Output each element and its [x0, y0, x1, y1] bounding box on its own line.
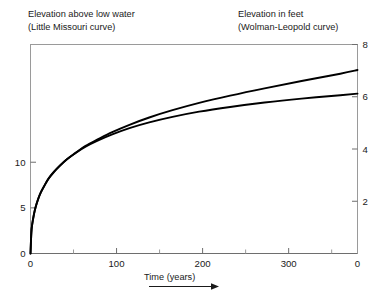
right-axis-caption-line2: (Wolman-Leopold curve): [238, 21, 338, 34]
left-axis-caption-line2: (Little Missouri curve): [28, 21, 135, 34]
curve-2: [31, 94, 358, 254]
right-axis-caption: Elevation in feet (Wolman-Leopold curve): [238, 8, 338, 33]
right-axis-caption-line1: Elevation in feet: [238, 8, 338, 21]
x-tick-label-right-zero: 0: [355, 258, 360, 269]
y-tick-label-left: 0: [20, 248, 25, 259]
x-tick-label: 100: [109, 258, 125, 269]
y-tick-label-right: 6: [363, 91, 368, 102]
left-axis-caption: Elevation above low water (Little Missou…: [28, 8, 135, 33]
y-tick-label-right: 4: [363, 144, 369, 155]
x-tick-label: 300: [281, 258, 297, 269]
y-tick-label-left: 5: [20, 202, 25, 213]
left-axis-caption-line1: Elevation above low water: [28, 8, 135, 21]
figure-container: Elevation above low water (Little Missou…: [0, 0, 379, 297]
x-axis-title-row: Time (years): [144, 272, 221, 291]
axis-tick-labels: 0100200300005102468: [15, 39, 369, 268]
y-tick-label-left: 10: [15, 157, 26, 168]
y-tick-label-right: 8: [363, 39, 368, 50]
chart-plot-area: 0100200300005102468: [0, 0, 379, 297]
x-tick-label: 0: [28, 258, 33, 269]
data-curves: [31, 70, 358, 253]
right-arrow-icon: [149, 282, 221, 291]
y-tick-label-right: 2: [363, 196, 368, 207]
x-tick-label: 200: [195, 258, 211, 269]
x-axis-title-label: Time (years): [144, 272, 195, 282]
